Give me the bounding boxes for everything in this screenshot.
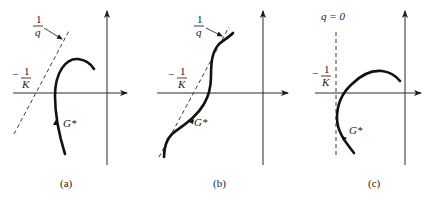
k-minus: −: [12, 68, 18, 80]
nyquist-curve-g-star: [337, 71, 400, 153]
curve-label: G*: [194, 116, 208, 128]
popov-criterion-figure: 1 q − 1 K G* (a) 1 q − 1 K G* (b) q = 0: [0, 0, 433, 203]
q-denominator: q: [196, 26, 202, 38]
panel-caption: (a): [60, 177, 73, 190]
q-numerator: 1: [36, 13, 42, 25]
panel-caption: (c): [368, 177, 381, 190]
panel-b: 1 q − 1 K G* (b): [157, 11, 288, 190]
curve-label: G*: [63, 117, 77, 129]
leader-arrow: [44, 28, 62, 39]
nyquist-curve-g-star: [55, 59, 94, 154]
nyquist-curve-g-star: [164, 33, 233, 157]
k-numerator: 1: [180, 65, 186, 77]
q-denominator: q: [35, 26, 41, 38]
panel-c: q = 0 − 1 K G* (c): [312, 10, 421, 190]
curve-label: G*: [349, 124, 363, 136]
k-numerator: 1: [24, 65, 30, 77]
k-denominator: K: [321, 76, 330, 88]
panel-a: 1 q − 1 K G* (a): [12, 11, 127, 190]
panel-caption: (b): [213, 177, 226, 190]
k-minus: −: [168, 68, 174, 80]
k-minus: −: [312, 67, 318, 79]
q-numerator: 1: [197, 13, 203, 25]
leader-arrow: [206, 28, 222, 36]
q-zero-label: q = 0: [321, 10, 345, 22]
k-denominator: K: [177, 78, 186, 90]
k-numerator: 1: [324, 63, 330, 75]
k-denominator: K: [21, 78, 30, 90]
